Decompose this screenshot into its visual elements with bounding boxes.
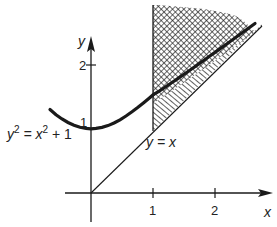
x-tick-label-1: 1 <box>149 203 156 218</box>
line-equation-label: y = x <box>145 134 177 150</box>
hyperbola-label-end: + 1 <box>48 126 72 142</box>
integration-region-diagram: y 2 1 1 2 x y2 = x2 + 1 y = x <box>0 0 277 227</box>
region-above-hatch <box>153 5 255 103</box>
x-tick-label-2: 2 <box>211 203 218 218</box>
hyperbola-label-mid: = x <box>20 126 44 142</box>
y-tick-label-1: 1 <box>80 115 87 130</box>
y-tick-label-2: 2 <box>79 58 86 73</box>
hyperbola-equation-label: y2 = x2 + 1 <box>6 124 72 142</box>
x-axis-label: x <box>263 204 272 220</box>
y-axis-label: y <box>77 33 86 49</box>
